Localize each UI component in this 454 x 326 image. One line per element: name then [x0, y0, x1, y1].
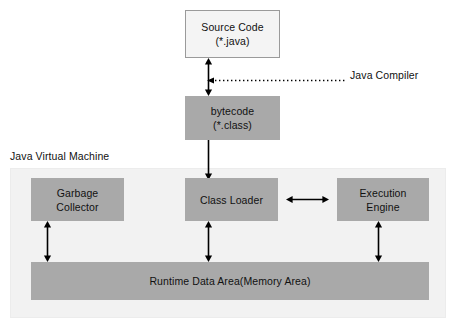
node-execution-engine-line2: Engine [366, 200, 399, 214]
jvm-architecture-diagram: Java Virtual Machine Source Code (*.java… [0, 0, 454, 326]
node-garbage-collector: Garbage Collector [31, 178, 124, 221]
arrow-class-loader-runtime [204, 221, 213, 262]
node-garbage-collector-line1: Garbage [57, 186, 99, 200]
node-class-loader: Class Loader [185, 178, 278, 221]
jvm-container-label: Java Virtual Machine [10, 150, 109, 162]
java-compiler-connector [207, 71, 345, 80]
node-source-code-line1: Source Code [201, 20, 263, 34]
java-compiler-label: Java Compiler [350, 69, 418, 81]
arrow-bytecode-class-loader [204, 140, 213, 180]
arrow-garbage-collector-runtime [43, 221, 52, 262]
node-class-loader-line1: Class Loader [200, 193, 263, 207]
node-bytecode-line2: (*.class) [213, 118, 252, 132]
node-source-code-line2: (*.java) [215, 34, 249, 48]
node-runtime-data-area-line1: Runtime Data Area(Memory Area) [149, 274, 310, 288]
node-garbage-collector-line2: Collector [56, 200, 98, 214]
node-bytecode: bytecode (*.class) [185, 96, 280, 140]
node-source-code: Source Code (*.java) [185, 10, 280, 58]
node-bytecode-line1: bytecode [211, 104, 254, 118]
node-runtime-data-area: Runtime Data Area(Memory Area) [31, 262, 429, 300]
node-execution-engine: Execution Engine [337, 178, 429, 221]
node-execution-engine-line1: Execution [359, 186, 406, 200]
arrow-class-loader-execution-engine [286, 195, 329, 204]
arrow-execution-engine-runtime [374, 221, 383, 262]
